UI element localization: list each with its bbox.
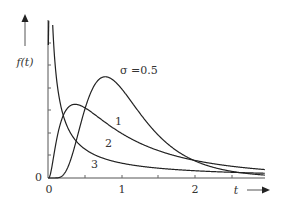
origin-x-label: 0 xyxy=(46,183,53,196)
x-axis-label: t xyxy=(234,184,239,197)
lognormal-chart: f(t) t 0 0 1 2 σ =0.5 1 2 3 xyxy=(0,0,285,210)
curve-sigma-1 xyxy=(48,104,264,178)
curve-label-2: 2 xyxy=(105,137,112,150)
origin-y-label: 0 xyxy=(35,171,42,184)
x-tick-label-1: 1 xyxy=(119,183,126,196)
curve-sigma-0-5 xyxy=(48,77,264,178)
curve-label-3: 3 xyxy=(91,158,98,171)
y-axis-label: f(t) xyxy=(15,56,33,69)
curve-label-1: 1 xyxy=(115,115,122,128)
curve-label-sigma-0-5: σ =0.5 xyxy=(120,64,158,77)
y-arrow-icon xyxy=(22,14,29,22)
x-tick-label-2: 2 xyxy=(192,183,199,196)
x-arrow-icon xyxy=(262,187,270,194)
